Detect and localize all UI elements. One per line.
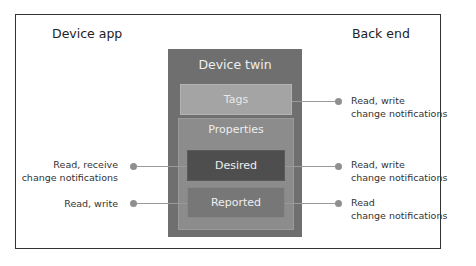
reported-device-connector (133, 203, 187, 204)
desired-backend-label-line2: change notifications (351, 171, 447, 184)
desired-backend-label: Read, write change notifications (351, 158, 447, 184)
desired-backend-connector (285, 166, 338, 167)
desired-device-label-line2: change notifications (22, 171, 118, 184)
desired-device-connector (133, 166, 187, 167)
desired-box: Desired (187, 150, 285, 181)
back-end-heading: Back end (352, 26, 410, 41)
desired-device-label: Read, receive change notifications (22, 158, 118, 184)
tags-backend-label: Read, write change notifications (351, 94, 447, 120)
properties-title: Properties (179, 123, 293, 136)
desired-backend-dot (335, 163, 342, 170)
tags-backend-label-line1: Read, write (351, 94, 447, 107)
reported-backend-label-line2: change notifications (351, 209, 447, 222)
reported-box: Reported (187, 187, 285, 218)
desired-label: Desired (215, 159, 257, 172)
reported-device-label-line1: Read, write (64, 197, 118, 210)
tags-box: Tags (180, 84, 292, 115)
device-app-heading: Device app (52, 26, 122, 41)
device-twin-title: Device twin (168, 57, 302, 72)
desired-device-dot (130, 163, 137, 170)
reported-label: Reported (211, 196, 261, 209)
reported-device-dot (130, 200, 137, 207)
reported-backend-dot (335, 200, 342, 207)
reported-backend-label: Read change notifications (351, 196, 447, 222)
tags-backend-label-line2: change notifications (351, 107, 447, 120)
tags-label: Tags (224, 93, 248, 106)
tags-backend-dot (335, 98, 342, 105)
tags-backend-connector (292, 101, 338, 102)
reported-backend-connector (285, 203, 338, 204)
reported-device-label: Read, write (64, 197, 118, 210)
desired-device-label-line1: Read, receive (22, 158, 118, 171)
desired-backend-label-line1: Read, write (351, 158, 447, 171)
reported-backend-label-line1: Read (351, 196, 447, 209)
